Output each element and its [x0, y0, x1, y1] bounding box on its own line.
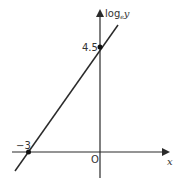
x-axis-label: x [167, 156, 173, 167]
y-axis-label: logey [105, 8, 130, 20]
x-intercept-label: −3 [16, 140, 31, 151]
graph: 4.5 −3 O x logey [0, 0, 180, 187]
y-intercept-point [98, 45, 103, 50]
y-axis-label-var: y [123, 8, 130, 19]
y-intercept-label: 4.5 [82, 42, 98, 53]
y-axis-label-log: log [105, 8, 120, 19]
origin-label: O [91, 154, 99, 165]
